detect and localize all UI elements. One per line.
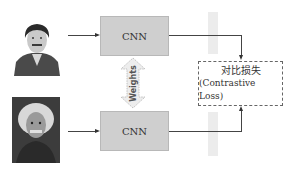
cnn-label: CNN [122,31,147,42]
arrowhead-icon [239,106,243,111]
cnn-block-bottom: CNN [100,111,169,151]
loss-label-zh: 对比损失 [221,64,261,77]
cnn-block-top: CNN [100,16,169,56]
arrowhead-icon [239,55,243,60]
loss-label-en: (Contrastive Loss) [199,77,282,103]
arrow-photo-to-cnn-top [68,35,96,36]
connector-top-horizontal [169,35,242,36]
connector-bottom-horizontal [169,131,242,132]
input-photo-bottom [12,97,60,163]
feature-vector-bottom [208,112,218,156]
feature-vector-top [208,12,218,54]
connector-top-vertical [241,35,242,56]
arrow-photo-to-cnn-bottom [68,131,96,132]
connector-bottom-vertical [241,111,242,132]
weights-label: Weights [119,57,147,109]
input-photo-top [12,20,62,76]
cnn-label: CNN [122,126,147,137]
contrastive-loss-box: 对比损失 (Contrastive Loss) [198,61,283,106]
